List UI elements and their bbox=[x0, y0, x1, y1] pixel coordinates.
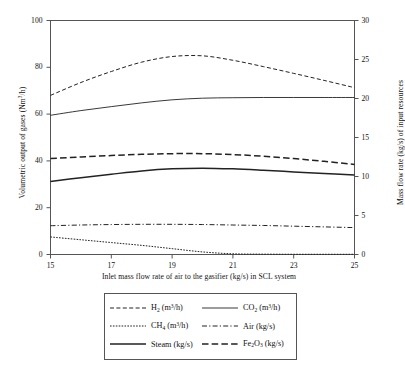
x-tick-15: 15 bbox=[38, 261, 64, 270]
y-tick-left-60: 60 bbox=[19, 109, 43, 118]
legend-item-co2[interactable]: CO2 (m3/h) bbox=[201, 303, 298, 313]
y-tick-left-40: 40 bbox=[19, 156, 43, 165]
y-tick-left-80: 80 bbox=[19, 62, 43, 71]
legend-swatch-ch4 bbox=[109, 321, 147, 331]
y-tick-right-20: 20 bbox=[362, 94, 386, 103]
legend-swatch-steam bbox=[109, 339, 147, 349]
legend-item-ch4[interactable]: CH4 (m3/h) bbox=[109, 321, 201, 331]
legend-item-steam[interactable]: Steam (kg/s) bbox=[109, 339, 201, 349]
y-tick-left-20: 20 bbox=[19, 203, 43, 212]
legend-item-fe2o3[interactable]: Fe2O3 (kg/s) bbox=[201, 339, 298, 349]
legend-swatch-h2 bbox=[109, 303, 147, 313]
legend-label-h2: H2 (m3/h) bbox=[151, 303, 183, 313]
plot-frame bbox=[51, 21, 355, 255]
y-tick-right-25: 25 bbox=[362, 55, 386, 64]
legend-label-fe2o3: Fe2O3 (kg/s) bbox=[243, 339, 284, 348]
legend-swatch-co2 bbox=[201, 303, 239, 313]
axis-ticks bbox=[47, 21, 359, 259]
data-series-layer bbox=[51, 56, 355, 255]
legend-item-h2[interactable]: H2 (m3/h) bbox=[109, 303, 201, 313]
x-tick-17: 17 bbox=[98, 261, 124, 270]
series-line-co2 bbox=[51, 97, 355, 115]
legend-label-steam: Steam (kg/s) bbox=[151, 340, 193, 349]
y-tick-right-0: 0 bbox=[362, 250, 386, 259]
series-line-air bbox=[51, 224, 355, 227]
chart-legend[interactable]: H2 (m3/h)CO2 (m3/h)CH4 (m3/h)Air (kg/s)S… bbox=[104, 293, 297, 360]
x-tick-25: 25 bbox=[342, 261, 368, 270]
series-line-ch4 bbox=[51, 237, 355, 254]
legend-item-air[interactable]: Air (kg/s) bbox=[201, 321, 298, 331]
x-tick-23: 23 bbox=[281, 261, 307, 270]
y-tick-right-15: 15 bbox=[362, 133, 386, 142]
y-tick-right-5: 5 bbox=[362, 211, 386, 220]
x-tick-19: 19 bbox=[159, 261, 185, 270]
series-line-fe2o3 bbox=[51, 154, 355, 165]
y-tick-left-100: 100 bbox=[19, 16, 43, 25]
legend-grid: H2 (m3/h)CO2 (m3/h)CH4 (m3/h)Air (kg/s)S… bbox=[109, 299, 292, 353]
legend-swatch-fe2o3 bbox=[201, 339, 239, 349]
series-line-h2 bbox=[51, 56, 355, 96]
y-tick-left-0: 0 bbox=[19, 250, 43, 259]
legend-label-air: Air (kg/s) bbox=[243, 322, 275, 331]
legend-label-co2: CO2 (m3/h) bbox=[243, 303, 280, 313]
x-tick-21: 21 bbox=[220, 261, 246, 270]
y-tick-right-30: 30 bbox=[362, 16, 386, 25]
legend-swatch-air bbox=[201, 321, 239, 331]
legend-label-ch4: CH4 (m3/h) bbox=[151, 321, 188, 331]
y-tick-right-10: 10 bbox=[362, 172, 386, 181]
series-line-steam bbox=[51, 168, 355, 181]
